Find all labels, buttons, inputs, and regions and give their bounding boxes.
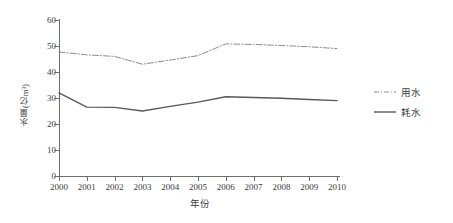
y-tick-label: 20 — [34, 120, 56, 129]
legend-solid-line-icon — [374, 107, 396, 117]
legend-dashdot-line-icon — [374, 87, 396, 97]
y-tick-label: 10 — [34, 146, 56, 155]
y-tick-mark — [54, 150, 59, 151]
legend-label-yongshui: 用水 — [401, 85, 421, 99]
x-tick-label: 2010 — [317, 182, 357, 192]
series-lines — [59, 20, 337, 176]
x-tick-mark — [309, 177, 310, 181]
series-line-yongshui — [59, 44, 337, 64]
legend-item-haoshui[interactable]: 耗水 — [374, 102, 452, 122]
chart-legend: 用水 耗水 — [374, 82, 452, 122]
x-tick-mark — [337, 177, 338, 181]
x-axis-line — [59, 176, 340, 177]
x-tick-mark — [198, 177, 199, 181]
x-tick-mark — [254, 177, 255, 181]
y-tick-mark — [54, 72, 59, 73]
x-tick-mark — [170, 177, 171, 181]
y-tick-mark — [54, 176, 59, 177]
y-tick-label: 0 — [34, 172, 56, 181]
x-axis-title: 年份 — [0, 196, 400, 210]
plot-area — [59, 20, 337, 176]
y-tick-label: 60 — [34, 16, 56, 25]
x-tick-mark — [59, 177, 60, 181]
y-tick-mark — [54, 20, 59, 21]
y-tick-label: 30 — [34, 94, 56, 103]
series-line-haoshui — [59, 93, 337, 111]
x-tick-mark — [115, 177, 116, 181]
line-chart-figure: 水量(亿m³) 6050403020100 200020012002200320… — [0, 0, 453, 223]
y-tick-label: 40 — [34, 68, 56, 77]
y-tick-mark — [54, 46, 59, 47]
y-axis-title: 水量(亿m³) — [18, 62, 32, 148]
y-tick-label: 50 — [34, 42, 56, 51]
x-tick-mark — [142, 177, 143, 181]
y-tick-mark — [54, 98, 59, 99]
x-tick-mark — [87, 177, 88, 181]
y-tick-mark — [54, 124, 59, 125]
legend-label-haoshui: 耗水 — [401, 105, 421, 119]
legend-item-yongshui[interactable]: 用水 — [374, 82, 452, 102]
x-tick-mark — [226, 177, 227, 181]
x-tick-mark — [281, 177, 282, 181]
